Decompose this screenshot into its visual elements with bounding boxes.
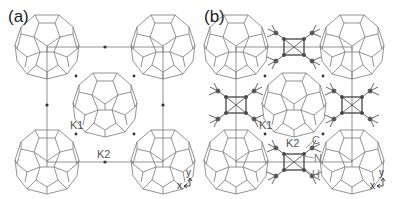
k2-label-a: K2 xyxy=(97,149,110,160)
figure: (a) K1 K2 y x (b) K1 K2 C N H y x xyxy=(0,0,402,199)
k1-label-b: K1 xyxy=(259,120,272,131)
x-axis-label-b: x xyxy=(370,181,375,191)
panel-b-label: (b) xyxy=(204,8,225,25)
k1-label-a: K1 xyxy=(70,120,83,131)
panel-a-lattice xyxy=(15,15,195,194)
y-axis-label-b: y xyxy=(379,168,384,178)
panel-a-label: (a) xyxy=(8,8,29,25)
atom-label-h: H xyxy=(312,169,320,180)
atom-label-c: C xyxy=(312,135,320,146)
panel-b-lattice xyxy=(204,15,385,194)
atom-label-n: N xyxy=(314,153,322,164)
k2-label-b: K2 xyxy=(286,138,299,149)
diagram-canvas xyxy=(0,0,402,199)
y-axis-label-a: y xyxy=(186,168,191,178)
x-axis-label-a: x xyxy=(177,181,182,191)
